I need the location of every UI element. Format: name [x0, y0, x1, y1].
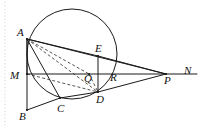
segment-C-D — [60, 92, 98, 98]
circle-outline — [27, 9, 117, 99]
geometry-figure: A E M Q R P N B C D — [0, 0, 203, 129]
point-label-D: D — [96, 94, 104, 105]
vertex-dot-E — [97, 55, 99, 57]
segment-B-C — [27, 98, 60, 110]
point-label-N: N — [184, 65, 191, 76]
point-label-R: R — [110, 72, 117, 83]
vertex-dot-B — [26, 109, 28, 111]
point-label-E: E — [95, 43, 102, 54]
segment-D-P — [98, 74, 166, 92]
point-label-B: B — [19, 111, 26, 122]
point-label-C: C — [57, 103, 64, 114]
point-label-M: M — [10, 70, 19, 81]
vertex-dot-C — [59, 97, 61, 99]
point-label-Q: Q — [84, 73, 92, 84]
vertex-dot-M — [26, 73, 28, 75]
segment-E-P — [98, 56, 166, 74]
geometry-canvas — [0, 0, 203, 129]
vertex-dot-A — [26, 38, 28, 40]
point-label-P: P — [164, 75, 171, 86]
dashed-A-D — [27, 39, 98, 92]
point-label-A: A — [17, 27, 24, 38]
